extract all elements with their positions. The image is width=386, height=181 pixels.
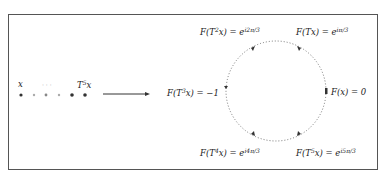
point-T5x [83, 93, 87, 97]
label-x: x [18, 80, 23, 89]
point-faint [33, 94, 35, 96]
label-FTx: F(Tx) = eiπ/3 [296, 27, 348, 37]
marker-FT2x [251, 46, 255, 51]
label-T5x: T5x [77, 80, 91, 90]
label-FT3x: F(T3x) = −1 [167, 88, 219, 98]
map-arrow [103, 92, 150, 96]
orbit-sequence [19, 93, 86, 97]
marker-FT3x [224, 86, 228, 89]
ellipsis: · · · [42, 82, 52, 88]
point-faint [58, 94, 60, 96]
label-Fx: F(x) = 0 [331, 88, 366, 97]
label-FT2x: F(T2x) = ei2π/3 [200, 27, 260, 37]
circle-markers [224, 46, 328, 136]
point-faint [45, 94, 48, 97]
marker-FTx [297, 46, 301, 51]
label-FT5x: F(T5x) = ei5π/3 [296, 148, 356, 158]
marker-Fx [325, 88, 328, 94]
point-x [19, 93, 22, 96]
unit-circle [226, 41, 326, 141]
label-FT4x: F(T4x) = ei4π/3 [200, 148, 260, 158]
point [70, 93, 74, 97]
